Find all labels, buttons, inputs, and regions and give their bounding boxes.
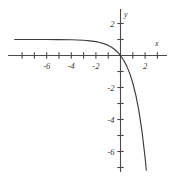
x-tick-label: 2 — [143, 61, 148, 71]
x-tick-label: -4 — [68, 61, 76, 71]
plot-svg: -6-4-22 2-2-4-6 x y — [0, 0, 171, 177]
y-tick-label: -6 — [107, 147, 115, 157]
x-axis-label: x — [154, 39, 159, 48]
y-tick-label: -2 — [107, 83, 115, 93]
y-tick-label: 2 — [110, 19, 115, 29]
y-tick-label: -4 — [107, 115, 115, 125]
exponential-curve — [15, 40, 147, 171]
x-tick-label: -2 — [92, 61, 100, 71]
y-axis-label: y — [123, 10, 128, 19]
x-axis-tick-labels: -6-4-22 — [43, 61, 148, 71]
y-axis-tick-labels: 2-2-4-6 — [107, 19, 115, 157]
graph-figure: -6-4-22 2-2-4-6 x y — [0, 0, 171, 177]
x-tick-label: -6 — [43, 61, 51, 71]
